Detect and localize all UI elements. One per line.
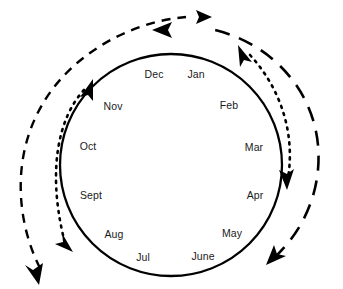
outer-long-dashed-arc bbox=[215, 30, 319, 258]
cycle-diagram-canvas bbox=[0, 0, 343, 289]
arrow-right-top-icon bbox=[196, 10, 212, 24]
arrow-left-top-icon bbox=[152, 22, 172, 38]
month-label-feb: Feb bbox=[220, 99, 238, 111]
figure-caption bbox=[4, 283, 339, 289]
month-label-mar: Mar bbox=[245, 141, 263, 153]
month-label-jul: Jul bbox=[136, 251, 150, 263]
arrow-down-left-dotted-icon bbox=[55, 233, 73, 252]
month-ring-circle bbox=[60, 54, 282, 276]
month-label-aug: Aug bbox=[105, 228, 124, 240]
month-label-apr: Apr bbox=[247, 189, 264, 201]
month-label-dec: Dec bbox=[145, 68, 164, 80]
arrow-down-bottom-left-icon bbox=[25, 263, 43, 285]
month-label-oct: Oct bbox=[80, 140, 97, 152]
month-label-jan: Jan bbox=[187, 68, 204, 80]
cycle-diagram: Jan Feb Mar Apr May June Jul Aug Sept Oc… bbox=[0, 0, 343, 289]
month-label-sept: Sept bbox=[80, 189, 102, 201]
month-label-may: May bbox=[222, 227, 242, 239]
month-label-nov: Nov bbox=[104, 100, 123, 112]
month-label-june: June bbox=[191, 250, 214, 262]
